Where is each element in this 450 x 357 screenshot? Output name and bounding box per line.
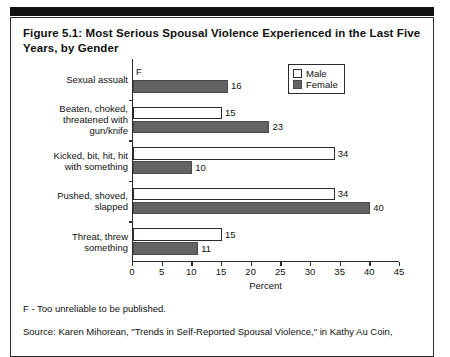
category-label: Pushed, shoved,slapped (10, 190, 128, 212)
y-tick (129, 221, 133, 222)
bar-value-label: 23 (272, 122, 283, 132)
legend-label-male: Male (306, 69, 327, 79)
bar-male (133, 228, 222, 241)
bar-female (133, 202, 370, 215)
x-tick-label: 5 (159, 267, 164, 277)
x-tick-label: 15 (216, 267, 227, 277)
x-tick-label: 10 (186, 267, 197, 277)
y-tick (129, 140, 133, 141)
category-label: Sexual assualt (10, 74, 128, 85)
legend-item-female: Female (293, 79, 338, 90)
bar-value-label: 15 (225, 230, 236, 240)
plot-area: F161523341034401511 (132, 59, 399, 262)
legend-swatch-female (293, 80, 302, 89)
bar-female (133, 242, 198, 255)
x-tick-label: 40 (364, 267, 375, 277)
figure-panel: Figure 5.1: Most Serious Spousal Violenc… (10, 17, 434, 357)
y-tick (129, 100, 133, 101)
x-tick-label: 20 (245, 267, 256, 277)
source-citation: Source: Karen Mihorean, "Trends in Self-… (23, 326, 433, 338)
bar-female (133, 121, 269, 134)
bar-value-label: 40 (373, 203, 384, 213)
category-label: Threat, threwsomething (10, 231, 128, 253)
x-tick-label: 35 (334, 267, 345, 277)
bar-value-label: 15 (225, 108, 236, 118)
bar-value-label: 34 (338, 149, 349, 159)
bar-value-label: 16 (231, 81, 242, 91)
legend-swatch-male (293, 69, 302, 78)
bar-female (133, 80, 228, 93)
unreliable-flag: F (136, 67, 142, 77)
bar-chart: Sexual assualtBeaten, choked,threatened … (11, 56, 435, 286)
x-tick-label: 30 (305, 267, 316, 277)
footnote: F - Too unreliable to be published. (23, 303, 166, 314)
bar-male (133, 188, 335, 201)
x-axis: 051015202530354045Percent (132, 262, 399, 294)
x-tick-label: 25 (275, 267, 286, 277)
category-label: Kicked, bit, hit, hitwith something (10, 150, 128, 172)
bar-value-label: 11 (201, 244, 211, 254)
category-label: Beaten, choked,threatened withgun/knife (10, 103, 128, 136)
x-tick-label: 45 (394, 267, 405, 277)
bar-value-label: 10 (195, 163, 206, 173)
legend-label-female: Female (306, 80, 338, 90)
x-axis-title: Percent (132, 280, 399, 291)
figure-title: Figure 5.1: Most Serious Spousal Violenc… (23, 26, 423, 56)
legend-item-male: Male (293, 68, 338, 79)
y-tick (129, 181, 133, 182)
chart-legend: Male Female (288, 64, 345, 94)
bar-value-label: 34 (338, 189, 349, 199)
bar-male (133, 107, 222, 120)
bar-female (133, 161, 192, 174)
bar-male (133, 147, 335, 160)
x-tick-label: 0 (129, 267, 134, 277)
top-rule (10, 7, 434, 16)
